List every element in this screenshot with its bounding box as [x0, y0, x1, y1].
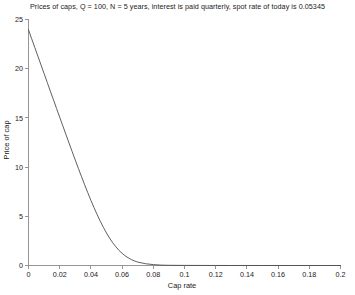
- x-tick-label: 0.1: [180, 270, 190, 279]
- x-axis-label: Cap rate: [168, 281, 196, 290]
- y-tick-label: 20: [15, 64, 23, 73]
- tick-marks-group: [25, 20, 341, 270]
- x-tick-label: 0.04: [84, 270, 98, 279]
- x-tick-label: 0.06: [115, 270, 129, 279]
- x-tick-label: 0.18: [302, 270, 316, 279]
- y-tick-label: 15: [15, 114, 23, 123]
- data-series-group: [29, 30, 341, 266]
- y-tick-label: 5: [19, 212, 23, 221]
- y-tick-label: 25: [15, 15, 23, 24]
- x-tick-label: 0.14: [240, 270, 254, 279]
- y-tick-label: 0: [19, 261, 23, 270]
- y-tick-label: 10: [15, 163, 23, 172]
- x-tick-label: 0: [27, 270, 31, 279]
- x-tick-labels: 00.020.040.060.080.10.120.140.160.180.2: [27, 270, 346, 279]
- figure-canvas: Prices of caps, Q = 100, N = 5 years, in…: [0, 0, 355, 295]
- x-tick-label: 0.08: [146, 270, 160, 279]
- axes-group: [29, 20, 341, 266]
- plot-area: 00.020.040.060.080.10.120.140.160.180.2 …: [0, 0, 355, 295]
- x-tick-label: 0.02: [53, 270, 67, 279]
- x-tick-label: 0.16: [271, 270, 285, 279]
- data-curve: [29, 30, 341, 266]
- y-axis-label: Price of cap: [2, 120, 11, 159]
- x-tick-label: 0.12: [209, 270, 223, 279]
- y-tick-labels: 0510152025: [15, 15, 23, 270]
- x-tick-label: 0.2: [336, 270, 346, 279]
